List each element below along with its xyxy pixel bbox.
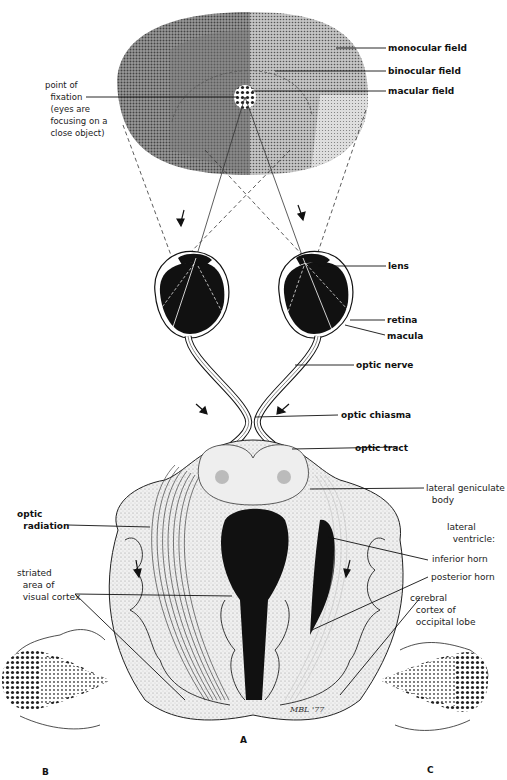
- visual-pathway-diagram: MBL '77 A B C monocular field bin: [0, 0, 507, 780]
- panel-label-a: A: [240, 735, 247, 745]
- left-eye: [155, 251, 229, 338]
- label-lateral-ventricle: lateral ventricle:: [447, 521, 495, 545]
- panel-label-c: C: [427, 765, 434, 775]
- label-retina: retina: [387, 314, 417, 326]
- hemisphere-b: [2, 630, 110, 729]
- label-optic-radiation: optic radiation: [17, 508, 69, 532]
- visual-field: [110, 5, 375, 185]
- label-binocular-field: binocular field: [388, 65, 461, 77]
- label-posterior-horn: posterior horn: [431, 571, 495, 583]
- label-optic-tract: optic tract: [355, 442, 408, 454]
- signature: MBL '77: [289, 705, 325, 714]
- label-macula: macula: [387, 330, 423, 342]
- label-cerebral-cortex: cerebral cortex of occipital lobe: [410, 592, 476, 628]
- label-striated-area: striated area of visual cortex: [17, 567, 80, 603]
- label-macular-field: macular field: [388, 85, 454, 97]
- label-optic-nerve: optic nerve: [356, 359, 413, 371]
- label-lens: lens: [388, 260, 409, 272]
- label-point-of-fixation: point of fixation (eyes are focusing on …: [45, 79, 107, 139]
- label-inferior-horn: inferior horn: [432, 553, 488, 565]
- label-monocular-field: monocular field: [388, 42, 467, 54]
- label-optic-chiasma: optic chiasma: [341, 409, 411, 421]
- right-eye: [279, 251, 353, 338]
- brain-section: MBL '77: [109, 440, 403, 720]
- hemisphere-c: [380, 643, 488, 731]
- panel-label-b: B: [42, 767, 49, 777]
- label-lateral-geniculate-body: lateral geniculate body: [426, 482, 505, 506]
